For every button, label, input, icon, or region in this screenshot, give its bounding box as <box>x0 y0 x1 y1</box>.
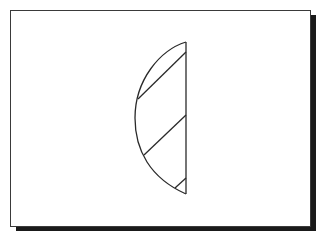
diagonal-line-3 <box>175 178 186 188</box>
half-disk-diagram <box>0 0 319 233</box>
diagonal-line-1 <box>138 52 186 99</box>
arc-boundary <box>135 42 186 194</box>
diagonal-line-2 <box>144 115 186 155</box>
